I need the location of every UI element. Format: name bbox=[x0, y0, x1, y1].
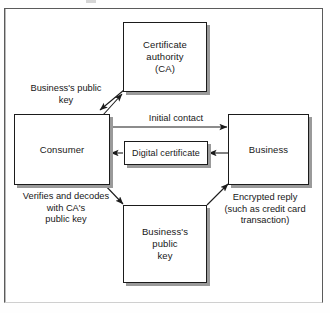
node-business-label: Business bbox=[249, 144, 288, 156]
node-business-public-key-label: Business's public key bbox=[142, 226, 188, 262]
node-consumer[interactable]: Consumer bbox=[14, 114, 110, 185]
node-certificate-authority-label: Certificate authority (CA) bbox=[143, 39, 187, 75]
annotation-initial-contact: Initial contact bbox=[126, 113, 226, 125]
node-digital-certificate[interactable]: Digital certificate bbox=[124, 141, 208, 165]
figure-container: Certificate authority (CA) Consumer Busi… bbox=[0, 0, 330, 313]
node-consumer-label: Consumer bbox=[40, 144, 85, 156]
node-digital-certificate-label: Digital certificate bbox=[132, 147, 200, 159]
node-business-public-key[interactable]: Business's public key bbox=[123, 205, 207, 283]
node-certificate-authority[interactable]: Certificate authority (CA) bbox=[123, 22, 207, 92]
annotation-business-public-key: Business's public key bbox=[10, 83, 122, 106]
node-business[interactable]: Business bbox=[228, 114, 309, 185]
annotation-verifies-and-decodes: Verifies and decodes with CA's public ke… bbox=[6, 191, 126, 226]
annotation-encrypted-reply: Encrypted reply (such as credit card tra… bbox=[206, 192, 324, 227]
